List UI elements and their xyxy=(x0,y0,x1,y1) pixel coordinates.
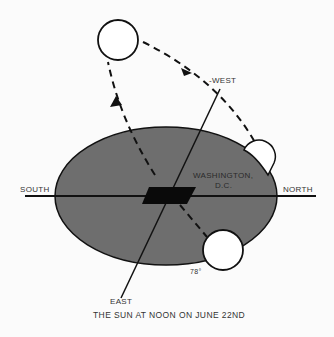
washington-dc-marker xyxy=(142,187,196,204)
west-label: -WEST xyxy=(209,76,236,85)
arrow-down-icon xyxy=(181,68,192,76)
sun-noon xyxy=(203,230,243,270)
sun-path-diagram xyxy=(0,0,334,337)
diagram-caption: THE SUN AT NOON ON JUNE 22ND xyxy=(93,310,245,320)
east-label: EAST xyxy=(110,297,132,306)
city-label-2: D.C. xyxy=(215,181,232,190)
north-label: NORTH xyxy=(283,185,313,194)
sun-morning xyxy=(98,20,138,60)
south-label: SOUTH xyxy=(20,185,50,194)
city-label: WASHINGTON, xyxy=(193,171,253,180)
angle-label: 78° xyxy=(190,268,202,275)
